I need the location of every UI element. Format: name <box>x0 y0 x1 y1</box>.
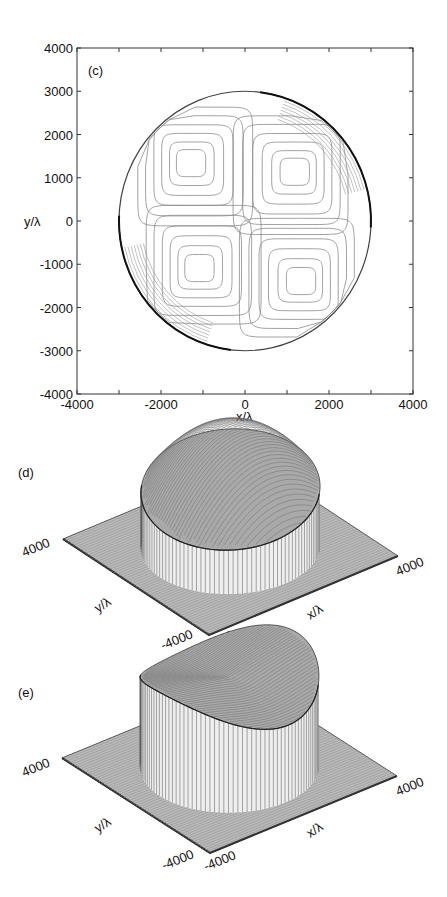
boundary-arc <box>260 92 371 227</box>
y-max-label: 4000 <box>20 755 52 780</box>
y-axis-label: y/λ <box>91 814 114 836</box>
y-tick-label: -3000 <box>40 344 73 359</box>
y-min-label: -4000 <box>160 846 196 872</box>
y-tick-label: 2000 <box>44 128 73 143</box>
contour-line <box>185 255 214 282</box>
figure: -4000-2000020004000 40003000200010000-10… <box>0 0 447 897</box>
contour-lines <box>119 91 371 351</box>
y-axis-label: y/λ <box>91 594 114 616</box>
contour-line <box>125 247 207 341</box>
y-axis-label-text: y/λ <box>24 214 41 229</box>
panel-e-surface-plot: (e) 4000 -4000 -4000 4000 y/λ x/λ <box>18 625 426 874</box>
surface-mesh <box>63 418 398 637</box>
top-surface <box>141 418 320 550</box>
y-axis-label: y/λ <box>24 214 41 229</box>
y-tick-label: -4000 <box>40 387 73 402</box>
surface-mesh <box>62 625 397 855</box>
y-max-label: 4000 <box>20 535 52 560</box>
x-tick-label: 2000 <box>315 397 344 412</box>
x-tick-label: -2000 <box>144 397 177 412</box>
y-tick-label: 3000 <box>44 84 73 99</box>
contour-line <box>146 116 244 216</box>
panel-label-e: (e) <box>18 685 34 700</box>
x-axis-label: x/λ <box>303 819 326 841</box>
x-axis-label: x/λ <box>303 601 326 623</box>
contour-line <box>286 267 315 294</box>
x-tick-label: 4000 <box>399 397 428 412</box>
y-tick-labels: 40003000200010000-1000-2000-3000-4000 <box>40 41 73 402</box>
y-tick-label: -2000 <box>40 301 73 316</box>
panel-c-contour-plot: -4000-2000020004000 40003000200010000-10… <box>24 41 427 424</box>
y-tick-label: -1000 <box>40 257 73 272</box>
x-max-label: 4000 <box>394 554 426 579</box>
y-tick-label: 0 <box>66 214 73 229</box>
x-max-label: 4000 <box>394 774 426 799</box>
contour-line <box>280 158 309 185</box>
contour-line <box>176 150 205 177</box>
y-tick-label: 1000 <box>44 171 73 186</box>
panel-label-d: (d) <box>18 465 34 480</box>
y-tick-label: 4000 <box>44 41 73 56</box>
panel-label-c: (c) <box>88 63 103 78</box>
contour-line <box>249 228 347 328</box>
panel-d-surface-plot: (d) 4000 -4000 -4000 4000 y/λ x/λ <box>18 418 426 654</box>
